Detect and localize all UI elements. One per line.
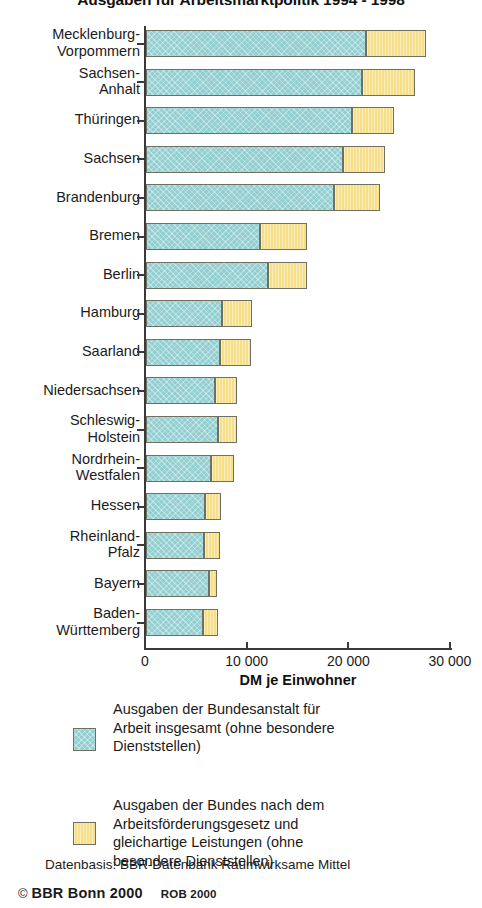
stacked-bar <box>146 609 218 636</box>
chart-category-row: Saarland <box>0 339 482 366</box>
bar-segment-bundesanstalt <box>146 107 352 134</box>
category-tick <box>137 81 145 83</box>
stacked-bar <box>146 146 385 173</box>
bar-segment-bundesanstalt <box>146 532 204 559</box>
bar-segment-bundesanstalt <box>146 570 209 597</box>
copyright-symbol-icon: © <box>18 886 28 901</box>
chart-category-row: Baden- Württemberg <box>0 609 482 636</box>
stacked-bar <box>146 262 307 289</box>
bar-segment-bund-afg <box>204 532 220 559</box>
category-label: Sachsen <box>84 150 140 167</box>
chart-category-row: Sachsen- Anhalt <box>0 69 482 96</box>
category-tick <box>137 622 145 624</box>
stacked-bar <box>146 570 217 597</box>
x-axis: 010 00020 00030 000 DM je Einwohner <box>0 648 482 694</box>
category-tick <box>137 236 145 238</box>
chart-category-row: Mecklenburg- Vorpommern <box>0 30 482 57</box>
chart-category-row: Bayern <box>0 570 482 597</box>
category-label: Thüringen <box>75 111 140 128</box>
category-tick <box>137 467 145 469</box>
copyright-text: BBR Bonn 2000 <box>31 885 142 901</box>
chart-category-row: Bremen <box>0 223 482 250</box>
legend-swatch-bundesanstalt <box>73 728 96 751</box>
category-tick <box>137 120 145 122</box>
legend-label: Ausgaben der Bundesanstalt für Arbeit in… <box>113 700 463 756</box>
bar-segment-bund-afg <box>343 146 385 173</box>
x-axis-title: DM je Einwohner <box>144 672 452 688</box>
category-label: Brandenburg <box>56 189 140 206</box>
chart-category-row: Sachsen <box>0 146 482 173</box>
chart-category-row: Hamburg <box>0 300 482 327</box>
chart-category-row: Niedersachsen <box>0 377 482 404</box>
category-label: Hessen <box>91 497 140 514</box>
bar-segment-bundesanstalt <box>146 69 362 96</box>
stacked-bar <box>146 493 221 520</box>
bar-segment-bund-afg <box>211 455 234 482</box>
category-tick <box>137 43 145 45</box>
bar-segment-bund-afg <box>268 262 307 289</box>
chart-category-row: Brandenburg <box>0 184 482 211</box>
x-tick-label: 20 000 <box>327 653 370 669</box>
x-tick-mark <box>347 642 349 650</box>
bar-segment-bundesanstalt <box>146 455 211 482</box>
bar-segment-bundesanstalt <box>146 416 218 443</box>
category-tick <box>137 390 145 392</box>
stacked-bar <box>146 184 380 211</box>
category-tick <box>137 158 145 160</box>
category-label: Saarland <box>82 343 140 360</box>
category-label: Berlin <box>103 266 140 283</box>
category-label: Schleswig- Holstein <box>70 412 140 445</box>
x-axis-line <box>144 648 452 650</box>
stacked-bar <box>146 416 238 443</box>
bar-segment-bund-afg <box>209 570 217 597</box>
bar-segment-bundesanstalt <box>146 377 215 404</box>
category-tick <box>137 583 145 585</box>
bar-segment-bund-afg <box>362 69 416 96</box>
stacked-bar <box>146 300 252 327</box>
stacked-bar <box>146 532 220 559</box>
bar-segment-bund-afg <box>260 223 307 250</box>
category-tick <box>137 429 145 431</box>
chart-category-row: Hessen <box>0 493 482 520</box>
x-tick-mark <box>246 642 248 650</box>
stacked-bar <box>146 455 234 482</box>
rob-text: ROB 2000 <box>161 888 217 900</box>
chart-category-row: Nordrhein- Westfalen <box>0 455 482 482</box>
stacked-bar <box>146 69 415 96</box>
bar-segment-bundesanstalt <box>146 146 343 173</box>
x-tick-mark <box>144 642 146 650</box>
bar-segment-bundesanstalt <box>146 262 268 289</box>
bar-segment-bundesanstalt <box>146 609 203 636</box>
bar-segment-bundesanstalt <box>146 30 366 57</box>
chart-category-row: Thüringen <box>0 107 482 134</box>
x-tick-label: 30 000 <box>429 653 472 669</box>
x-tick-mark <box>449 642 451 650</box>
stacked-bar <box>146 30 426 57</box>
copyright-line: © BBR Bonn 2000 ROB 2000 <box>18 885 217 901</box>
bar-segment-bund-afg <box>205 493 221 520</box>
bar-segment-bund-afg <box>215 377 237 404</box>
category-label: Nordrhein- Westfalen <box>72 451 141 484</box>
category-label: Bayern <box>94 575 140 592</box>
category-tick <box>137 544 145 546</box>
category-label: Baden- Württemberg <box>56 605 140 638</box>
bar-segment-bund-afg <box>218 416 237 443</box>
category-label: Bremen <box>89 227 140 244</box>
chart-title: Ausgaben für Arbeitsmarktpolitik 1994 - … <box>0 0 482 9</box>
category-label: Mecklenburg- Vorpommern <box>52 26 140 59</box>
stacked-bar <box>146 377 238 404</box>
bar-segment-bundesanstalt <box>146 300 222 327</box>
chart-category-row: Rheinland- Pfalz <box>0 532 482 559</box>
chart-category-row: Berlin <box>0 262 482 289</box>
x-tick-label: 0 <box>141 653 149 669</box>
category-label: Hamburg <box>80 304 140 321</box>
plot-area: Mecklenburg- VorpommernSachsen- AnhaltTh… <box>0 26 482 652</box>
bar-segment-bundesanstalt <box>146 184 334 211</box>
x-tick-label: 10 000 <box>225 653 268 669</box>
bar-segment-bund-afg <box>203 609 218 636</box>
bar-segment-bundesanstalt <box>146 339 220 366</box>
category-tick <box>137 313 145 315</box>
category-label: Niedersachsen <box>43 382 140 399</box>
stacked-bar <box>146 107 394 134</box>
bar-segment-bund-afg <box>366 30 426 57</box>
